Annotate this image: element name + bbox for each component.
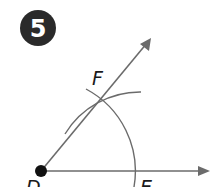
arc-from-D <box>86 89 135 187</box>
step-badge: 5 <box>20 10 56 46</box>
ray-DF <box>41 43 147 171</box>
label-E: E <box>140 176 152 187</box>
arrowhead-right-icon <box>198 166 210 176</box>
step-number: 5 <box>30 15 47 43</box>
label-F: F <box>92 67 104 89</box>
label-D: D <box>26 176 41 187</box>
construction-diagram: 5 F D E <box>0 0 222 187</box>
